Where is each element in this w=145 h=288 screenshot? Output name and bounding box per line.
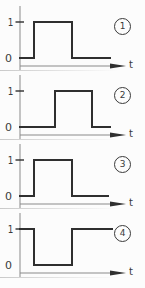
panel-number-badge-2: 2 — [114, 87, 131, 104]
level-low-label: 0 — [5, 191, 12, 202]
waveform-plot-4 — [0, 209, 145, 278]
panel-number-badge-3: 3 — [114, 156, 131, 173]
waveform-plot-1 — [0, 2, 145, 71]
level-high-label: 1 — [8, 155, 14, 166]
panel-number-badge-4: 4 — [114, 225, 131, 242]
time-axis-label: t — [129, 267, 133, 277]
waveform-plot-3 — [0, 140, 145, 209]
time-axis-label: t — [129, 60, 133, 70]
time-axis-label: t — [129, 198, 133, 208]
waveform-panel-3: 1 0 t 3 — [0, 140, 145, 209]
level-low-label: 0 — [5, 122, 12, 133]
timing-diagram-figure: 1 0 t 1 1 0 t 2 1 0 t 3 1 0 t 4 — [0, 0, 145, 288]
waveform-panel-1: 1 0 t 1 — [0, 2, 145, 71]
waveform-panel-4: 1 0 t 4 — [0, 209, 145, 278]
waveform-plot-2 — [0, 71, 145, 140]
panel-number-badge-1: 1 — [114, 18, 131, 35]
level-low-label: 0 — [5, 53, 12, 64]
level-high-label: 1 — [8, 86, 14, 97]
level-low-label: 0 — [5, 260, 12, 271]
waveform-panel-2: 1 0 t 2 — [0, 71, 145, 140]
level-high-label: 1 — [8, 224, 14, 235]
level-high-label: 1 — [8, 17, 14, 28]
time-axis-label: t — [129, 129, 133, 139]
